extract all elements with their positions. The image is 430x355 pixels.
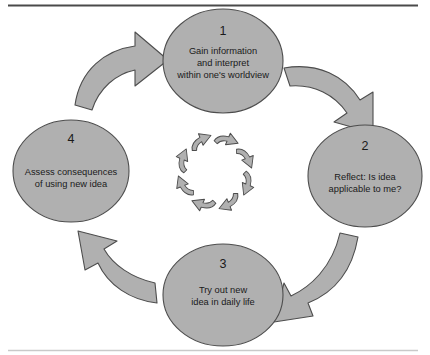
node-3-line-1: Try out new	[199, 285, 248, 295]
node-1[interactable]: 1 Gain information and interpret within …	[163, 9, 283, 113]
arrow-1-to-2	[284, 67, 373, 133]
arrow-2-to-3	[274, 233, 358, 322]
node-1-line-2: and interpret	[197, 58, 250, 68]
node-2-number: 2	[362, 139, 369, 153]
node-3-number: 3	[220, 257, 227, 271]
node-4-line-1: Assess consequences	[25, 167, 118, 177]
node-1-number: 1	[220, 24, 227, 38]
arrow-4-to-1	[75, 32, 168, 110]
node-3-line-2: idea in daily life	[191, 297, 255, 307]
node-1-line-1: Gain information	[189, 46, 257, 56]
arrow-3-to-4	[78, 231, 157, 303]
node-2[interactable]: 2 Reflect: Is idea applicable to me?	[308, 125, 422, 227]
center-cycle-ring	[172, 129, 259, 216]
node-4-line-2: of using new idea	[35, 179, 108, 189]
diagram-canvas: 1 Gain information and interpret within …	[0, 0, 430, 355]
cycle-diagram-figure: 1 Gain information and interpret within …	[0, 0, 430, 355]
node-4[interactable]: 4 Assess consequences of using new idea	[13, 120, 129, 222]
node-2-line-2: applicable to me?	[329, 184, 402, 194]
node-4-number: 4	[68, 132, 75, 146]
node-3[interactable]: 3 Try out new idea in daily life	[163, 244, 283, 346]
node-1-line-3: within one's worldview	[176, 70, 269, 80]
node-2-line-1: Reflect: Is idea	[334, 172, 396, 182]
